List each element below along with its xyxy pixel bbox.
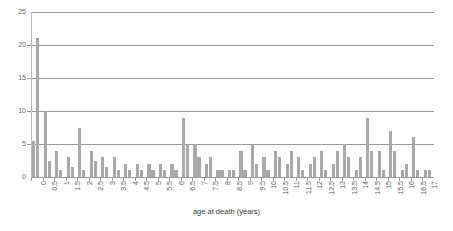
bar <box>359 157 362 177</box>
bar-series <box>31 12 434 177</box>
bar <box>428 170 431 177</box>
bar <box>251 144 254 177</box>
bar <box>320 151 323 177</box>
bar <box>262 157 265 177</box>
bar <box>71 167 74 177</box>
y-tick-label: 5 <box>0 140 26 147</box>
bar <box>105 167 108 177</box>
bar-group <box>296 12 308 177</box>
bar <box>412 137 415 177</box>
bar <box>113 157 116 177</box>
bar <box>336 151 339 177</box>
bar-group <box>31 12 43 177</box>
bar <box>32 141 35 177</box>
bar <box>216 170 219 177</box>
bar-group <box>307 12 319 177</box>
bar <box>278 157 281 177</box>
bar <box>343 144 346 177</box>
y-tick-label: 15 <box>0 74 26 81</box>
bar <box>405 164 408 177</box>
bar <box>117 170 120 177</box>
x-tick-label: 12 <box>316 181 323 189</box>
x-tick-label: 3.5 <box>120 181 127 191</box>
bar <box>159 164 162 177</box>
bar <box>209 157 212 177</box>
x-tick-label: 16 <box>408 181 415 189</box>
bar-group <box>250 12 262 177</box>
bar <box>128 170 131 177</box>
bar <box>67 157 70 177</box>
bar <box>147 164 150 177</box>
x-tick-label: 4.5 <box>143 181 150 191</box>
x-tick-label: 11.5 <box>305 181 312 194</box>
x-tick-label: 15.5 <box>397 181 404 195</box>
x-tick-label: 1.5 <box>74 181 81 191</box>
x-tick-label: 4 <box>132 181 139 185</box>
x-tick-label: 12.5 <box>328 181 335 195</box>
bar <box>366 118 369 177</box>
bar <box>297 157 300 177</box>
bar <box>186 144 189 177</box>
bar <box>163 170 166 177</box>
bar <box>136 164 139 177</box>
bar <box>389 131 392 177</box>
bar-group <box>330 12 342 177</box>
bar <box>101 157 104 177</box>
x-tick-label: 0.5 <box>51 181 58 191</box>
x-axis-title: age at death (years) <box>0 207 453 216</box>
bar <box>332 164 335 177</box>
x-tick-label: 5 <box>155 181 162 185</box>
bar-group <box>89 12 101 177</box>
bar <box>36 38 39 177</box>
bar <box>94 161 97 178</box>
x-tick-label: 10 <box>270 181 277 189</box>
bar <box>48 161 51 178</box>
x-tick-label: 10.5 <box>282 181 289 195</box>
x-tick-label: 3 <box>109 181 116 185</box>
bar-group <box>388 12 400 177</box>
bar <box>313 157 316 177</box>
bar <box>416 170 419 177</box>
bar-group <box>422 12 434 177</box>
x-tick-label: 16.5 <box>420 181 427 195</box>
bar <box>44 111 47 177</box>
bar <box>324 170 327 177</box>
y-tick-label: 20 <box>0 41 26 48</box>
x-tick-label: 7.5 <box>212 181 219 191</box>
bar <box>239 151 242 177</box>
bar <box>266 170 269 177</box>
bar-group <box>181 12 193 177</box>
bar <box>90 151 93 177</box>
bar <box>193 144 196 177</box>
bar <box>174 170 177 177</box>
bar <box>378 151 381 177</box>
x-tick-label: 6 <box>178 181 185 185</box>
bar-group <box>112 12 124 177</box>
bar-group <box>227 12 239 177</box>
bar-group <box>399 12 411 177</box>
bar <box>424 170 427 177</box>
bar <box>290 151 293 177</box>
bar <box>401 170 404 177</box>
bar <box>382 170 385 177</box>
bar-group <box>192 12 204 177</box>
bar <box>170 164 173 177</box>
bar-group <box>319 12 331 177</box>
bar-group <box>365 12 377 177</box>
bar <box>59 170 62 177</box>
x-tick-label: 2.5 <box>97 181 104 191</box>
bar <box>243 170 246 177</box>
bar <box>82 170 85 177</box>
bar <box>301 170 304 177</box>
bar <box>274 151 277 177</box>
x-tick-label: 13.5 <box>351 181 358 195</box>
bar-group <box>66 12 78 177</box>
bar-group <box>169 12 181 177</box>
x-tick-label: 9.5 <box>259 181 266 191</box>
bar-group <box>215 12 227 177</box>
bar-group <box>123 12 135 177</box>
histogram-chart: 0510152025 00.511.522.533.544.555.566.57… <box>0 0 453 231</box>
bar <box>55 151 58 177</box>
x-tick-label: 9 <box>247 181 254 185</box>
x-tick-label: 1 <box>63 181 70 185</box>
